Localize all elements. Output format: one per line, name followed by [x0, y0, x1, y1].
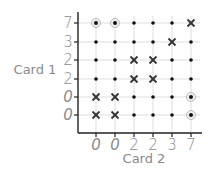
y-tick-label: 2	[63, 70, 73, 88]
circled-dot-center	[94, 21, 98, 25]
x-tick-label: 7	[186, 136, 196, 154]
dot-marker	[113, 58, 117, 62]
x-tick-label: 0	[91, 136, 101, 154]
circled-dot-center	[189, 95, 193, 99]
dot-marker	[151, 113, 155, 117]
y-tick-label: 3	[63, 33, 73, 51]
dot-marker	[170, 21, 174, 25]
dot-marker	[132, 113, 136, 117]
dot-marker	[170, 113, 174, 117]
dot-marker	[170, 95, 174, 99]
dot-marker	[113, 40, 117, 44]
dot-marker	[94, 40, 98, 44]
y-tick-label: 2	[63, 51, 73, 69]
dot-marker	[132, 21, 136, 25]
circled-dot-center	[113, 21, 117, 25]
dot-marker	[189, 58, 193, 62]
dot-marker	[151, 40, 155, 44]
grid-plot: 732200002237 Card 1 Card 2	[0, 0, 208, 175]
dot-marker	[94, 77, 98, 81]
markers	[92, 19, 196, 120]
x-axis-title: Card 2	[123, 151, 166, 166]
y-axis-title: Card 1	[14, 62, 57, 77]
dot-marker	[189, 77, 193, 81]
dot-marker	[151, 95, 155, 99]
dot-marker	[94, 58, 98, 62]
circled-dot-center	[189, 113, 193, 117]
dot-marker	[170, 77, 174, 81]
dot-marker	[132, 95, 136, 99]
dot-marker	[170, 58, 174, 62]
dot-marker	[113, 77, 117, 81]
x-tick-label: 0	[110, 136, 120, 154]
dot-marker	[151, 21, 155, 25]
y-tick-label: 0	[63, 88, 73, 106]
x-tick-label: 3	[167, 136, 177, 154]
dot-marker	[189, 40, 193, 44]
dot-marker	[132, 40, 136, 44]
y-tick-label: 7	[63, 14, 73, 32]
y-tick-label: 0	[63, 106, 73, 124]
